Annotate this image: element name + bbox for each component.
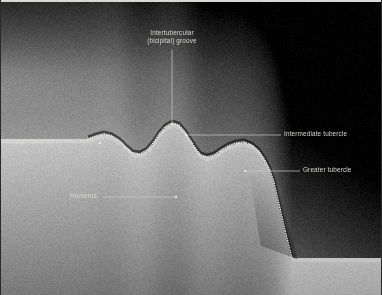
frame-top-border	[0, 0, 382, 2]
label-greater-tubercle: Greater tubercle	[303, 166, 352, 174]
label-groove-line2: (bicipital) groove	[147, 37, 197, 44]
label-lesser-tubercle: Lesser tubercle	[8, 138, 54, 146]
label-intermediate-tubercle: Intermediate tubercle	[284, 130, 347, 138]
label-humerus: Humerus	[70, 192, 97, 200]
frame-left-border	[0, 0, 1, 295]
label-groove-line1: Intertubercular	[150, 29, 193, 36]
label-intertubercular-groove: Intertubercular(bicipital) groove	[133, 29, 211, 45]
ultrasound-figure: Intertubercular(bicipital) groove Interm…	[0, 0, 382, 295]
